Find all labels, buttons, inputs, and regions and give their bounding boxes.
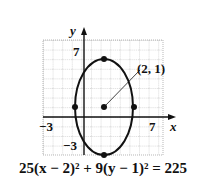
vertex-bottom [101,152,107,158]
y-axis-label: y [68,23,76,38]
x-tick-neg3: −3 [39,119,53,134]
ellipse-graph: y x 7 −3 7 −3 (2, 1) [0,0,206,181]
y-tick-7: 7 [73,44,80,59]
x-tick-7: 7 [149,119,156,134]
covertex-left [72,104,78,110]
y-axis-arrow-icon [81,27,87,35]
x-axis-label: x [169,119,177,134]
equation: 25(x − 2)² + 9(y − 1)² = 225 [0,160,206,177]
y-tick-neg3: −3 [63,138,77,153]
vertex-top [101,56,107,62]
center-label: (2, 1) [137,61,165,76]
covertex-right [131,104,137,110]
